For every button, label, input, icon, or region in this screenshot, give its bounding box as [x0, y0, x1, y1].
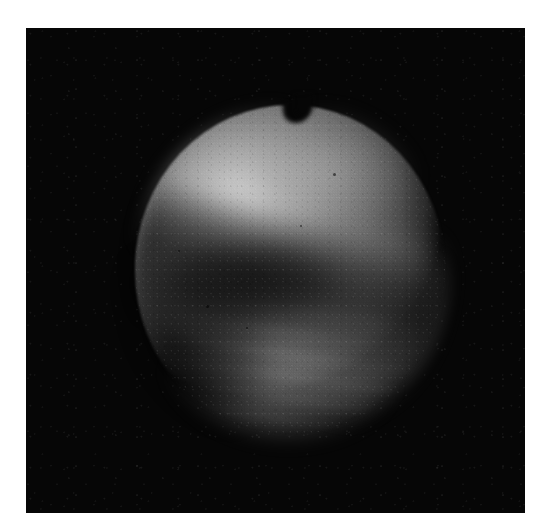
photographic-plate [26, 28, 525, 513]
limb-darkening-fade [135, 105, 445, 435]
disk-speck [206, 305, 209, 308]
disk-speck [246, 327, 248, 329]
disk-speck [333, 173, 336, 176]
image-canvas [0, 0, 544, 532]
disk-speck [300, 225, 302, 227]
planetary-disk [135, 105, 445, 435]
disk-speck [178, 250, 180, 252]
